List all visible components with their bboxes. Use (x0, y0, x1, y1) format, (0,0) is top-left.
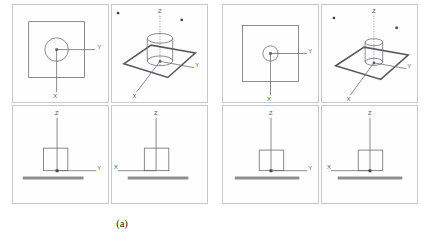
view-a-side-elevation[interactable]: Z X (111, 105, 208, 204)
figure-root: Y X (0, 0, 428, 243)
axis-x-b-iso: X (346, 63, 373, 102)
axis-label-z: Z (368, 110, 372, 116)
view-a-isometric-view[interactable]: Z Y (111, 4, 208, 103)
axis-x-b-side: X (327, 164, 370, 171)
view-b-isometric-view[interactable]: Z Y (321, 4, 418, 103)
axis-label-y: Y (97, 165, 101, 171)
view-a-top-view[interactable]: Y X (12, 4, 109, 103)
axis-y-b-top: Y (271, 48, 313, 54)
view-b-top-view[interactable]: Y X (222, 4, 319, 103)
axis-x-a-top: X (53, 50, 57, 99)
view-b-front-elevation[interactable]: Z Y (222, 105, 319, 204)
origin-marker-a-iso (159, 60, 161, 62)
axis-label-z: Z (154, 110, 158, 116)
ground-plane-a-side (128, 177, 189, 180)
axis-z-a-side: Z (154, 110, 158, 171)
axis-label-z: Z (158, 8, 162, 14)
view-b-side-elevation[interactable]: Z X (321, 105, 418, 204)
axis-label-x: X (346, 96, 350, 102)
corner-marker-right-b (395, 27, 397, 29)
origin-marker-b-top (269, 52, 272, 55)
axis-z-a-iso: Z (158, 8, 162, 66)
axis-z-b-side: Z (368, 110, 372, 171)
column-profile-a-side (144, 148, 168, 171)
origin-marker-b-side (369, 169, 372, 172)
panel-a: Y X (12, 4, 208, 207)
axis-z-b-iso: Z (372, 8, 376, 66)
panel-a-caption: (a) (24, 218, 220, 229)
origin-marker-a-top (55, 48, 58, 51)
axis-label-z: Z (269, 110, 273, 116)
axis-label-y: Y (195, 62, 199, 68)
column-profile-b-side (358, 150, 382, 171)
ground-plane-b-side (338, 177, 403, 180)
axis-label-z: Z (55, 110, 59, 116)
axis-label-z: Z (372, 8, 376, 14)
axis-y-a-top: Y (57, 44, 102, 50)
panel-b: Y X (222, 4, 418, 207)
ground-plate-b (336, 47, 408, 79)
corner-marker-left-b (333, 17, 335, 19)
axis-label-y: Y (407, 63, 411, 69)
axis-label-y: Y (97, 44, 101, 50)
axis-label-x: X (53, 93, 57, 99)
corner-marker-right-a (181, 19, 183, 21)
corner-marker-left-a (117, 12, 119, 14)
view-a-front-elevation[interactable]: Z Y (12, 105, 109, 204)
axis-z-a-front: Z (55, 110, 59, 171)
axis-label-x: X (267, 96, 271, 102)
axis-y-a-front: Y (57, 165, 101, 171)
origin-marker-b-front (270, 169, 273, 172)
axis-z-b-front: Z (269, 110, 273, 171)
axis-label-x: X (133, 93, 137, 99)
ground-plane-b-front (235, 177, 300, 180)
axis-y-b-front: Y (271, 165, 312, 171)
ground-plane-a-front (23, 177, 84, 180)
axis-label-y: Y (308, 48, 312, 54)
axis-y-b-iso: Y (374, 63, 411, 69)
viewport-grid-a: Y X (12, 4, 208, 204)
column-profile-b-front (259, 150, 283, 171)
origin-marker-a-front (56, 169, 59, 172)
axis-label-x: X (114, 164, 118, 170)
axis-x-a-side: X (114, 164, 156, 171)
axis-label-y: Y (308, 165, 312, 171)
viewport-grid-b: Y X (222, 4, 418, 204)
axis-label-x: X (327, 164, 331, 170)
column-profile-a-front (43, 148, 67, 171)
origin-marker-b-iso (373, 62, 375, 64)
